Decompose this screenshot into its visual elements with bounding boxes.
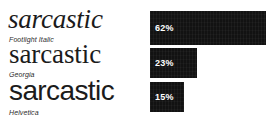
bar-value-footlight-italic: 62% <box>155 24 174 33</box>
specimen-caption-helvetica: Helvetica <box>9 109 146 116</box>
specimen-word-helvetica: sarcastic <box>9 77 146 105</box>
bar-value-georgia: 23% <box>155 59 174 68</box>
bar-footlight-italic: 62% <box>150 11 266 45</box>
bar-column: 62% 23% 15% <box>150 0 272 126</box>
specimen-word-georgia: sarcastic <box>9 41 146 68</box>
bar-value-helvetica: 15% <box>155 93 174 102</box>
font-preference-chart: sarcastic Footlight Italic sarcastic Geo… <box>0 0 272 126</box>
font-specimen-georgia: sarcastic Georgia <box>0 41 146 78</box>
font-specimen-helvetica: sarcastic Helvetica <box>0 77 146 116</box>
font-specimen-column: sarcastic Footlight Italic sarcastic Geo… <box>0 0 146 126</box>
bar-helvetica: 15% <box>150 82 184 112</box>
specimen-word-footlight-italic: sarcastic <box>8 6 146 33</box>
bar-georgia: 23% <box>150 48 197 78</box>
font-specimen-footlight-italic: sarcastic Footlight Italic <box>0 6 146 43</box>
